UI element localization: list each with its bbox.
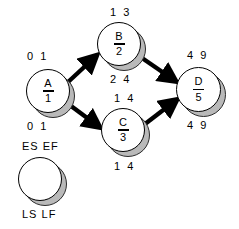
node-b-disc: B 2: [97, 22, 141, 66]
node-b-label: B: [115, 31, 122, 43]
legend-node: [18, 157, 62, 201]
node-b-top-label: 1 3: [110, 6, 131, 18]
node-a-top-label: 0 1: [27, 50, 48, 62]
node-c-bottom-label: 1 4: [114, 160, 135, 172]
node-a-duration: 1: [45, 92, 51, 104]
legend-node-disc: [18, 157, 62, 201]
node-a-bottom-label: 0 1: [27, 120, 48, 132]
node-b[interactable]: B 2: [97, 22, 141, 66]
node-c-fraction: C 3: [118, 117, 129, 143]
node-c[interactable]: C 3: [101, 108, 145, 152]
node-d[interactable]: D 5: [176, 67, 221, 112]
node-c-duration: 3: [120, 131, 126, 143]
node-a-label: A: [44, 78, 51, 90]
node-d-fraction: D 5: [193, 76, 204, 102]
node-a[interactable]: A 1: [26, 69, 70, 113]
node-d-top-label: 4 9: [187, 49, 208, 61]
node-c-disc: C 3: [101, 108, 145, 152]
node-a-fraction: A 1: [43, 78, 54, 104]
node-d-label: D: [195, 76, 203, 88]
edge-c-to-d: [145, 101, 175, 124]
network-diagram-canvas: 0 1 A 1 0 1 1 3 B 2 2 4 1 4 C: [0, 0, 239, 229]
node-b-fraction: B 2: [114, 31, 125, 57]
edge-a-to-b: [67, 57, 95, 83]
legend-bottom-label: LS LF: [22, 208, 56, 220]
node-d-disc: D 5: [176, 67, 221, 112]
node-c-top-label: 1 4: [114, 92, 135, 104]
legend-top-label: ES EF: [22, 140, 59, 152]
node-a-disc: A 1: [26, 69, 70, 113]
node-d-bottom-label: 4 9: [187, 119, 208, 131]
node-c-label: C: [119, 117, 127, 129]
node-b-duration: 2: [116, 45, 122, 57]
node-b-bottom-label: 2 4: [110, 73, 131, 85]
node-d-duration: 5: [195, 91, 201, 103]
edge-b-to-d: [142, 58, 174, 80]
